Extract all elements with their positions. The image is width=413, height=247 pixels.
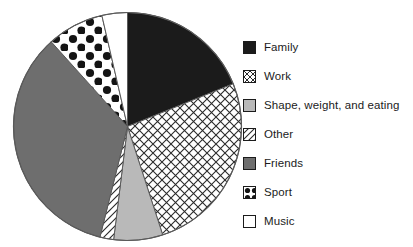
legend-item-sport[interactable]: Sport bbox=[243, 178, 413, 207]
legend-label-sport: Sport bbox=[264, 186, 292, 199]
legend-label-music: Music bbox=[264, 215, 295, 228]
legend-item-music[interactable]: Music bbox=[243, 207, 413, 236]
pie-chart-svg bbox=[0, 0, 255, 247]
legend-item-family[interactable]: Family bbox=[243, 33, 413, 62]
legend-label-shape-weight-eating: Shape, weight, and eating bbox=[264, 99, 400, 112]
legend-swatch-family bbox=[243, 41, 256, 54]
legend-swatch-work bbox=[243, 70, 256, 83]
legend-swatch-music bbox=[243, 215, 256, 228]
legend-item-friends[interactable]: Friends bbox=[243, 149, 413, 178]
legend-label-friends: Friends bbox=[264, 157, 303, 170]
legend-label-family: Family bbox=[264, 41, 298, 54]
pie-chart-plot-area bbox=[0, 0, 255, 247]
legend-item-shape-weight-eating[interactable]: Shape, weight, and eating bbox=[243, 91, 413, 120]
legend-label-other: Other bbox=[264, 128, 293, 141]
legend-swatch-sport bbox=[243, 186, 256, 199]
legend-swatch-other bbox=[243, 128, 256, 141]
legend-item-other[interactable]: Other bbox=[243, 120, 413, 149]
legend-item-work[interactable]: Work bbox=[243, 62, 413, 91]
pie-slice-group bbox=[14, 13, 242, 241]
legend-swatch-shape-weight-eating bbox=[243, 99, 256, 112]
legend-swatch-friends bbox=[243, 157, 256, 170]
chart-legend: Family Work Shape, weight, and eating Ot… bbox=[243, 33, 413, 223]
legend-label-work: Work bbox=[264, 70, 291, 83]
pie-chart-figure: Family Work Shape, weight, and eating Ot… bbox=[0, 0, 413, 247]
